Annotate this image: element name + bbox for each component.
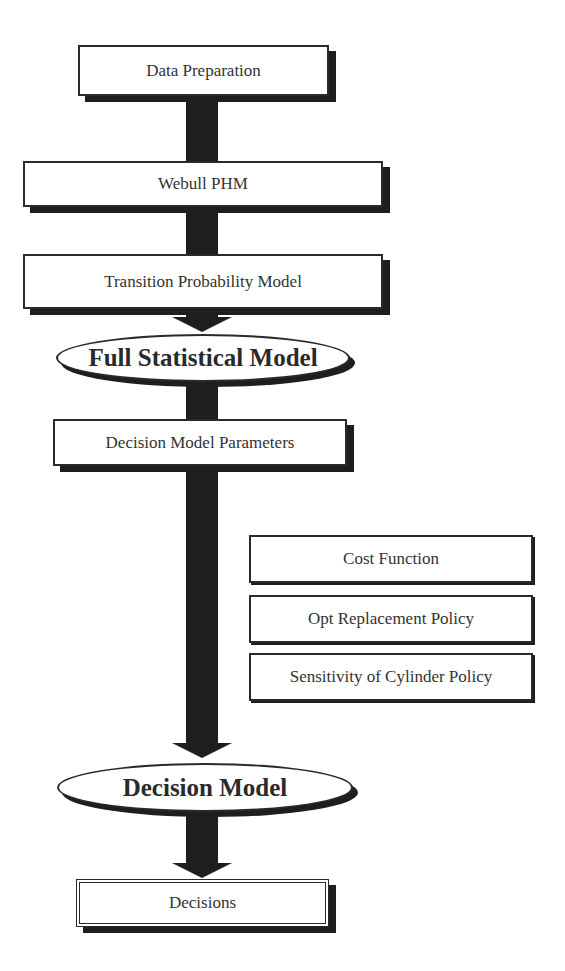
node-label: Full Statistical Model — [88, 344, 317, 372]
node-label: Cost Function — [343, 549, 439, 569]
node-decision-model: Decision Model — [57, 763, 353, 812]
node-data-preparation: Data Preparation — [78, 45, 329, 96]
connector-full-model-to-parameters — [186, 382, 218, 420]
node-full-statistical-model: Full Statistical Model — [56, 334, 350, 382]
node-label: Data Preparation — [146, 61, 261, 81]
arrow-head-to-full-model — [172, 317, 232, 332]
node-label: Transition Probability Model — [104, 272, 302, 292]
arrow-head-to-decision-model — [172, 743, 232, 758]
node-label: Decisions — [169, 893, 236, 913]
arrow-head-to-decisions — [172, 863, 232, 878]
flowchart-canvas: Data Preparation Webull PHM Transition P… — [0, 0, 565, 971]
node-transition-probability-model: Transition Probability Model — [23, 254, 383, 309]
node-decision-model-parameters: Decision Model Parameters — [53, 419, 347, 466]
node-webull-phm: Webull PHM — [23, 161, 383, 207]
node-decisions: Decisions — [76, 879, 329, 927]
node-sensitivity-of-cylinder-policy: Sensitivity of Cylinder Policy — [249, 653, 533, 701]
connector-decision-model-to-decisions — [186, 811, 218, 864]
connector-webull-to-transition — [186, 206, 218, 256]
node-opt-replacement-policy: Opt Replacement Policy — [249, 595, 533, 643]
connector-parameters-to-decision-model — [186, 466, 218, 744]
node-label: Decision Model Parameters — [106, 433, 295, 453]
node-label: Webull PHM — [158, 174, 248, 194]
node-label: Sensitivity of Cylinder Policy — [290, 667, 493, 687]
node-label: Decision Model — [123, 774, 288, 802]
connector-data-prep-to-webull — [186, 96, 218, 162]
node-cost-function: Cost Function — [249, 535, 533, 583]
node-label: Opt Replacement Policy — [308, 609, 474, 629]
